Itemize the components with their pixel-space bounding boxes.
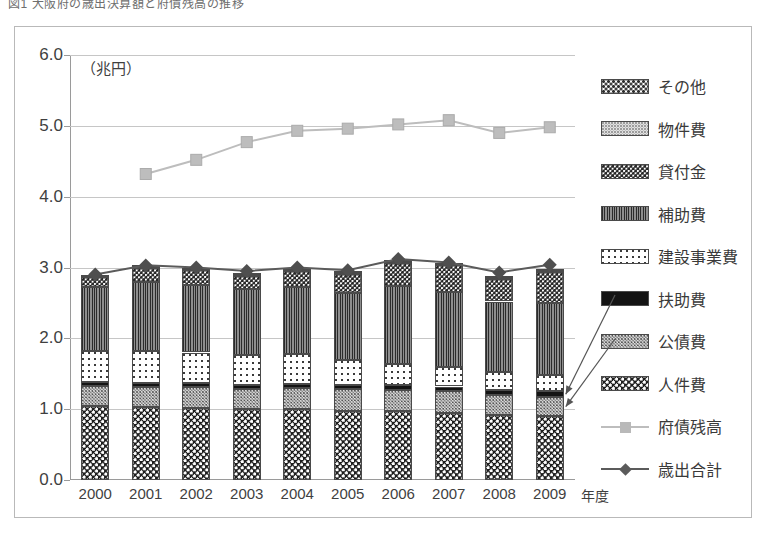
x-tick-label: 2006 <box>382 485 415 502</box>
legend-line-marker <box>619 463 632 476</box>
figure-caption: 図1 大阪府の歳出決算額と府債残高の推移 <box>8 0 438 12</box>
plot-area <box>70 55 575 480</box>
x-tick-label: 2002 <box>180 485 213 502</box>
data-point-marker <box>191 154 202 165</box>
x-axis-tick-labels: 2000200120022003200420052006200720082009 <box>70 485 575 507</box>
data-point-marker <box>442 256 456 270</box>
x-tick-label: 2009 <box>533 485 566 502</box>
legend-line-fusai <box>601 419 649 434</box>
data-point-marker <box>189 261 203 275</box>
legend-item-jinken[interactable]: 人件費 <box>601 363 766 406</box>
legend-swatch-hojo <box>601 206 649 221</box>
data-point-marker <box>240 264 254 278</box>
data-point-marker <box>88 268 102 282</box>
y-tick-label: 5.0 <box>39 116 63 136</box>
legend-label: 公債費 <box>658 329 706 353</box>
legend-label: 建設事業費 <box>658 244 738 268</box>
legend-item-fujo[interactable]: 扶助費 <box>601 278 766 321</box>
legend-item-kensetsu[interactable]: 建設事業費 <box>601 235 766 278</box>
legend-swatch-jinken <box>601 376 649 391</box>
x-tick-label: 2000 <box>79 485 112 502</box>
data-point-marker <box>139 258 153 272</box>
y-tick-label: 2.0 <box>39 328 63 348</box>
legend-item-bukken[interactable]: 物件費 <box>601 108 766 151</box>
legend-label: 歳出合計 <box>658 457 722 481</box>
data-point-marker <box>543 258 557 272</box>
legend-item-kosai[interactable]: 公債費 <box>601 320 766 363</box>
legend-swatch-kosai <box>601 334 649 349</box>
data-point-marker <box>494 127 505 138</box>
x-tick-label: 2003 <box>230 485 263 502</box>
legend-label: 府債残高 <box>658 414 722 438</box>
line-saishutsu <box>95 259 550 275</box>
legend-item-hojo[interactable]: 補助費 <box>601 193 766 236</box>
data-point-marker <box>391 252 405 266</box>
y-tick-label: 1.0 <box>39 399 63 419</box>
chart-legend: その他物件費貸付金補助費建設事業費扶助費公債費人件費府債残高歳出合計 <box>601 65 766 490</box>
y-tick-label: 3.0 <box>39 258 63 278</box>
y-axis-tick-labels: 6.05.04.03.02.01.00.0 <box>15 55 63 480</box>
data-point-marker <box>443 115 454 126</box>
data-point-marker <box>292 125 303 136</box>
legend-label: その他 <box>658 74 706 98</box>
data-point-marker <box>140 169 151 180</box>
line-series-layer <box>70 55 575 480</box>
legend-label: 補助費 <box>658 202 706 226</box>
chart-frame: （兆円） 6.05.04.03.02.01.00.0 2000200120022… <box>14 26 752 518</box>
y-tick-label: 6.0 <box>39 45 63 65</box>
legend-item-fusai[interactable]: 府債残高 <box>601 405 766 448</box>
legend-swatch-kashitsuke <box>601 164 649 179</box>
legend-label: 貸付金 <box>658 159 706 183</box>
legend-label: 人件費 <box>658 372 706 396</box>
data-point-marker <box>393 119 404 130</box>
legend-label: 物件費 <box>658 117 706 141</box>
legend-line-saishutsu <box>601 461 649 476</box>
legend-item-kashitsuke[interactable]: 貸付金 <box>601 150 766 193</box>
legend-swatch-kensetsu <box>601 249 649 264</box>
x-tick-label: 2008 <box>483 485 516 502</box>
x-tick-label: 2001 <box>129 485 162 502</box>
y-tick-label: 4.0 <box>39 187 63 207</box>
data-point-marker <box>544 122 555 133</box>
legend-item-sonota[interactable]: その他 <box>601 65 766 108</box>
legend-item-saishutsu[interactable]: 歳出合計 <box>601 448 766 491</box>
legend-swatch-sonota <box>601 79 649 94</box>
figure-caption-text: 図1 大阪府の歳出決算額と府債残高の推移 <box>8 0 244 11</box>
data-point-marker <box>241 137 252 148</box>
data-point-marker <box>290 261 304 275</box>
legend-line-marker <box>620 422 631 433</box>
y-tick-mark <box>64 480 70 481</box>
y-tick-label: 0.0 <box>39 470 63 490</box>
x-tick-label: 2007 <box>432 485 465 502</box>
x-tick-label: 2004 <box>281 485 314 502</box>
legend-label: 扶助費 <box>658 287 706 311</box>
legend-swatch-bukken <box>601 121 649 136</box>
data-point-marker <box>492 265 506 279</box>
data-point-marker <box>341 263 355 277</box>
data-point-marker <box>342 123 353 134</box>
x-tick-label: 2005 <box>331 485 364 502</box>
chart-screenshot: 図1 大阪府の歳出決算額と府債残高の推移 （兆円） 6.05.04.03.02.… <box>0 0 766 546</box>
legend-swatch-fujo <box>601 291 649 306</box>
